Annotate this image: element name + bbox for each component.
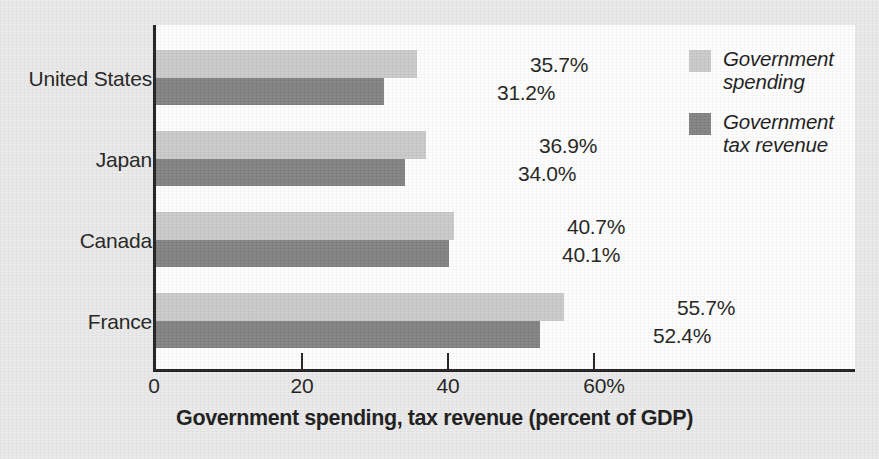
- bar-value-revenue-united-states: 31.2%: [497, 81, 555, 105]
- category-label-united-states: United States: [29, 67, 152, 91]
- bar-spending-france: [156, 293, 564, 321]
- x-tick-label-40: 40: [437, 374, 460, 398]
- x-tick-label-0: 0: [148, 374, 159, 398]
- legend-item-government-tax-revenue: Government tax revenue: [689, 111, 834, 157]
- x-axis-title: Government spending, tax revenue (percen…: [0, 406, 879, 431]
- bar-revenue-japan: [156, 159, 405, 186]
- bar-spending-united-states: [156, 50, 417, 78]
- x-axis-line: [153, 369, 855, 372]
- bar-value-revenue-france: 52.4%: [653, 324, 711, 348]
- legend-item-government-spending: Government spending: [689, 48, 834, 94]
- x-tick-mark-40: [447, 353, 449, 370]
- bar-spending-japan: [156, 131, 426, 159]
- bar-value-revenue-canada: 40.1%: [562, 243, 620, 267]
- bar-value-spending-france: 55.7%: [677, 296, 735, 320]
- legend-label-revenue: Government tax revenue: [723, 111, 834, 157]
- bar-revenue-canada: [156, 240, 449, 267]
- category-label-canada: Canada: [80, 229, 152, 253]
- legend-swatch-revenue-icon: [689, 113, 711, 135]
- x-tick-label-20: 20: [291, 374, 314, 398]
- bar-spending-canada: [156, 212, 454, 240]
- x-tick-mark-60: [593, 353, 595, 370]
- bar-revenue-france: [156, 321, 540, 348]
- bar-value-spending-united-states: 35.7%: [530, 53, 588, 77]
- bar-revenue-united-states: [156, 78, 384, 105]
- bar-value-spending-canada: 40.7%: [567, 215, 625, 239]
- legend-label-spending: Government spending: [723, 48, 834, 94]
- bar-value-spending-japan: 36.9%: [539, 134, 597, 158]
- bar-chart-figure: United States Japan Canada France 35.7% …: [0, 0, 879, 459]
- bar-value-revenue-japan: 34.0%: [518, 162, 576, 186]
- category-label-japan: Japan: [96, 148, 152, 172]
- x-tick-mark-20: [301, 353, 303, 370]
- category-label-france: France: [88, 310, 152, 334]
- legend-swatch-spending-icon: [689, 50, 711, 72]
- x-tick-mark-0: [153, 353, 155, 370]
- x-tick-label-60: 60%: [583, 374, 624, 398]
